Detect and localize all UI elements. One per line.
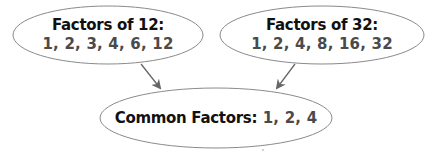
node-title: Common Factors: (115, 109, 257, 127)
node-values: 1, 2, 4, 8, 16, 32 (222, 35, 422, 54)
arrow-12-to-common (141, 64, 160, 88)
node-title: Factors of 12: (13, 16, 203, 35)
node-values: 1, 2, 4 (263, 109, 318, 127)
arrow-32-to-common (277, 64, 295, 88)
stray-dot (262, 149, 264, 151)
node-factors-32: Factors of 32: 1, 2, 4, 8, 16, 32 (222, 16, 422, 54)
node-title: Factors of 32: (222, 16, 422, 35)
node-values: 1, 2, 3, 4, 6, 12 (13, 35, 203, 54)
node-common: Common Factors: 1, 2, 4 (100, 108, 332, 128)
node-factors-12: Factors of 12: 1, 2, 3, 4, 6, 12 (13, 16, 203, 54)
